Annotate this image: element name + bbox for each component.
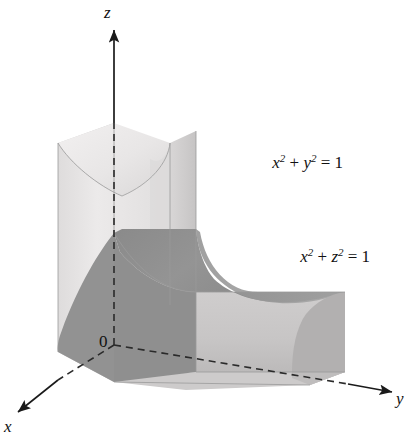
x-axis-solid-segment — [18, 380, 58, 412]
z-axis-label: z — [103, 3, 111, 22]
x-axis-label: x — [3, 417, 12, 436]
eq1-y: y — [301, 153, 311, 172]
eq2-equals: = 1 — [344, 247, 371, 266]
y-axis-solid-segment — [348, 384, 392, 392]
vertical-cylinder-equation-label: x2 + y2 = 1 — [234, 152, 373, 172]
y-axis-label: y — [394, 389, 404, 408]
eq1-equals: = 1 — [316, 153, 343, 172]
cylinder-intersection-figure: z y x 0 x2 + y2 = 1 x2 + z2 = 1 — [0, 0, 412, 440]
figure-container: z y x 0 x2 + y2 = 1 x2 + z2 = 1 — [0, 0, 412, 440]
eq2-plus: + — [313, 247, 331, 266]
eq1-plus: + — [285, 153, 303, 172]
horizontal-cylinder-equation-label: x2 + z2 = 1 — [262, 246, 400, 266]
origin-label: 0 — [99, 332, 108, 351]
